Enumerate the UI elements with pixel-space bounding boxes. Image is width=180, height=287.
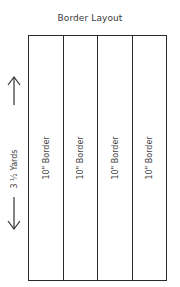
border-strip-3: 10" Border: [98, 36, 133, 280]
strip-label: 10" Border: [41, 136, 50, 179]
strip-label: 10" Border: [145, 136, 154, 179]
arrow-down-icon: [6, 195, 22, 231]
arrow-up-icon: [6, 75, 22, 107]
border-layout-diagram: 10" Border 10" Border 10" Border 10" Bor…: [28, 35, 167, 281]
strip-label: 10" Border: [110, 136, 119, 179]
strip-label: 10" Border: [76, 136, 85, 179]
border-strip-2: 10" Border: [64, 36, 99, 280]
length-label: 3 ½ Yards: [10, 149, 19, 188]
border-strip-4: 10" Border: [133, 36, 167, 280]
border-strip-1: 10" Border: [29, 36, 64, 280]
length-dimension: 3 ½ Yards: [0, 35, 28, 281]
diagram-title: Border Layout: [0, 13, 180, 23]
